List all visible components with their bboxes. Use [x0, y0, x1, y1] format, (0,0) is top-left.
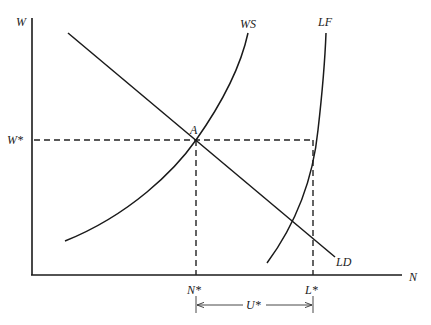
wage-level-label: W* [7, 133, 23, 147]
equilibrium-point-label: A [189, 123, 198, 137]
x-axis-label: N [408, 270, 418, 284]
labor-demand-label: LD [335, 255, 352, 269]
labor-demand-curve [68, 33, 335, 257]
labor-force-curve [267, 33, 326, 263]
labor-market-diagram: W N LD WS LF A W* N* L* U* [0, 0, 431, 325]
wage-setting-label: WS [240, 17, 256, 31]
wage-setting-curve [65, 33, 248, 241]
employment-level-label: N* [186, 283, 201, 297]
y-axis-label: W [16, 15, 27, 29]
labor-force-label: LF [317, 15, 333, 29]
labor-force-level-label: L* [304, 283, 318, 297]
unemployment-label: U* [246, 298, 261, 312]
